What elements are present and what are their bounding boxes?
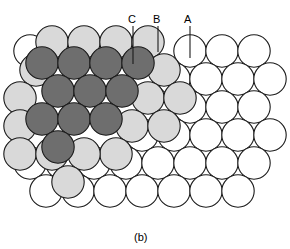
sphere-layer-c bbox=[106, 75, 138, 107]
sphere-layer-b bbox=[148, 110, 180, 142]
sphere-layer-c bbox=[42, 131, 74, 163]
sphere-layer-c bbox=[58, 47, 90, 79]
figure-caption: (b) bbox=[134, 232, 147, 243]
sphere-layer-c bbox=[74, 75, 106, 107]
sphere-layer-c bbox=[58, 103, 90, 135]
sphere-layer-b bbox=[100, 138, 132, 170]
sphere-layer-a bbox=[254, 63, 286, 95]
sphere-layer-c bbox=[42, 75, 74, 107]
layer-label-c: C bbox=[128, 14, 136, 25]
sphere-layer-a bbox=[126, 175, 158, 207]
layer-label-b: B bbox=[153, 14, 160, 25]
sphere-layer-b bbox=[4, 138, 36, 170]
sphere-layer-c bbox=[26, 47, 58, 79]
sphere-layer-a bbox=[222, 119, 254, 151]
close-packed-stacking-figure: C B A (b) bbox=[0, 0, 290, 249]
sphere-layer-a bbox=[158, 175, 190, 207]
sphere-layer-a bbox=[206, 35, 238, 67]
sphere-layer-a bbox=[94, 175, 126, 207]
sphere-layer-c bbox=[26, 103, 58, 135]
layer-label-a: A bbox=[184, 14, 191, 25]
sphere-layer-b bbox=[164, 82, 196, 114]
sphere-layer-a bbox=[190, 175, 222, 207]
sphere-layer-c bbox=[90, 103, 122, 135]
sphere-layer-a bbox=[206, 147, 238, 179]
sphere-layer-a bbox=[174, 147, 206, 179]
sphere-layer-b bbox=[52, 166, 84, 198]
sphere-layer-a bbox=[254, 119, 286, 151]
sphere-layer-c bbox=[90, 47, 122, 79]
sphere-layer-a bbox=[238, 35, 270, 67]
sphere-layer-c bbox=[122, 47, 154, 79]
sphere-layer-a bbox=[222, 63, 254, 95]
sphere-layer-a bbox=[238, 147, 270, 179]
sphere-layer-a bbox=[142, 147, 174, 179]
sphere-packing-canvas bbox=[0, 0, 290, 249]
sphere-layer-a bbox=[222, 175, 254, 207]
sphere-layer-a bbox=[190, 119, 222, 151]
sphere-layer-a bbox=[238, 91, 270, 123]
sphere-layer-a bbox=[206, 91, 238, 123]
